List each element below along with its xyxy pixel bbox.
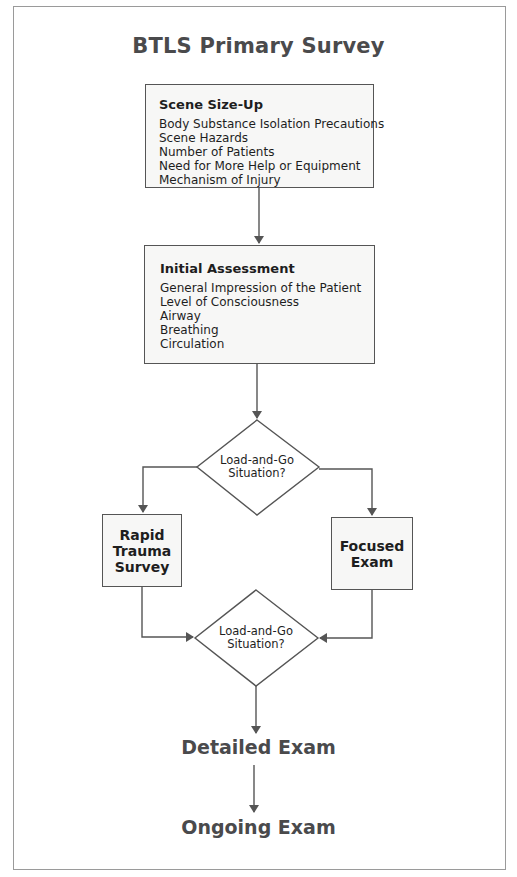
ongoing-exam-label: Ongoing Exam [0,816,517,838]
initial-assessment-heading: Initial Assessment [160,261,374,276]
scene-item: Need for More Help or Equipment [159,159,373,173]
scene-item: Number of Patients [159,145,373,159]
arrow-decision-to-focused [319,469,372,515]
scene-size-up-heading: Scene Size-Up [159,97,373,112]
focused-line1: Focused [340,538,405,554]
assessment-item: Level of Consciousness [160,295,374,309]
rapid-trauma-survey-box: Rapid Trauma Survey [102,514,182,587]
scene-item: Scene Hazards [159,131,373,145]
assessment-item: Breathing [160,323,374,337]
arrow-rapid-to-decision2 [142,587,193,637]
arrow-focused-to-decision2 [320,590,372,638]
rapid-line3: Survey [113,559,171,575]
decision-2-label: Load-and-Go Situation? [196,625,316,651]
assessment-item: Circulation [160,337,374,351]
scene-item: Mechanism of Injury [159,173,373,187]
rapid-line1: Rapid [113,527,171,543]
assessment-item: Airway [160,309,374,323]
decision-1-label: Load-and-Go Situation? [197,454,317,480]
detailed-exam-label: Detailed Exam [0,736,517,758]
arrow-decision-to-rapid [143,467,197,512]
decision-2-line2: Situation? [196,638,316,651]
rapid-line2: Trauma [113,543,171,559]
decision-1-line2: Situation? [197,467,317,480]
scene-item: Body Substance Isolation Precautions [159,117,373,131]
scene-size-up-box: Scene Size-Up Body Substance Isolation P… [145,84,374,188]
initial-assessment-box: Initial Assessment General Impression of… [144,245,375,364]
focused-line2: Exam [340,554,405,570]
assessment-item: General Impression of the Patient [160,281,374,295]
focused-exam-box: Focused Exam [331,517,413,590]
